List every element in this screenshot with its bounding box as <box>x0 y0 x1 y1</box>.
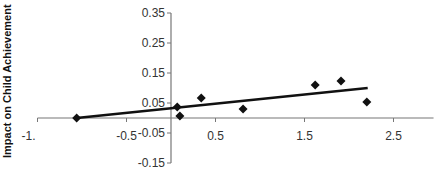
y-tick-label: 0.25 <box>142 36 166 50</box>
trend-line-group <box>77 88 368 118</box>
data-points <box>72 77 371 123</box>
data-point <box>311 81 320 90</box>
trend-line <box>77 88 368 118</box>
x-tick-label: 1.5 <box>296 129 313 143</box>
data-point <box>173 102 182 111</box>
y-tick-label: 0.15 <box>142 66 166 80</box>
data-point <box>197 93 206 102</box>
data-point <box>239 105 248 114</box>
y-tick-label: 0.05 <box>142 96 166 110</box>
x-tick-label: -1. <box>21 129 35 143</box>
x-tick-label: 0.5 <box>207 129 224 143</box>
x-tick-label: -0.5 <box>116 129 137 143</box>
ticks: -1.-0.50.51.52.50.350.250.150.05-0.05-0.… <box>21 6 402 170</box>
axes <box>38 13 434 163</box>
x-tick-label: 2.5 <box>385 129 402 143</box>
y-tick-label: -0.15 <box>138 156 166 170</box>
data-point <box>336 77 345 86</box>
y-tick-label: 0.35 <box>142 6 166 20</box>
data-point <box>72 114 81 123</box>
data-point <box>362 98 371 107</box>
y-tick-label: -0.05 <box>138 126 166 140</box>
scatter-chart: -1.-0.50.51.52.50.350.250.150.05-0.05-0.… <box>0 0 439 178</box>
data-point <box>175 111 184 120</box>
